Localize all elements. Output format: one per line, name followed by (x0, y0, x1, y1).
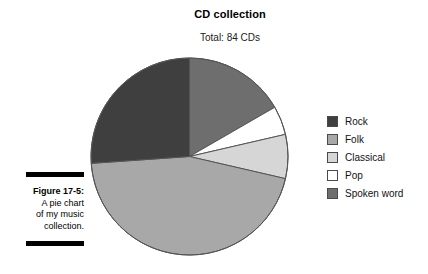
legend-swatch-classical (327, 152, 338, 163)
legend-label-folk: Folk (345, 134, 364, 145)
legend-label-spoken-word: Spoken word (345, 188, 403, 199)
pie-chart (90, 57, 289, 256)
chart-total-label: Total: 84 CDs (140, 32, 320, 43)
figure-caption: Figure 17-5: A pie chart of my music col… (22, 172, 84, 246)
figure-number: Figure 17-5: (22, 186, 84, 198)
chart-title: CD collection (140, 8, 320, 20)
legend-item-pop[interactable]: Pop (327, 166, 427, 184)
figure-caption-line-3: collection. (22, 221, 84, 233)
legend-swatch-folk (327, 134, 338, 145)
legend-label-rock: Rock (345, 116, 368, 127)
chart-legend: Rock Folk Classical Pop Spoken word (327, 112, 427, 202)
figure-caption-line-1: A pie chart (22, 198, 84, 210)
legend-swatch-rock (327, 116, 338, 127)
pie-chart-svg (90, 57, 289, 256)
legend-item-classical[interactable]: Classical (327, 148, 427, 166)
legend-swatch-pop (327, 170, 338, 181)
caption-rule-bottom (26, 241, 84, 246)
legend-item-folk[interactable]: Folk (327, 130, 427, 148)
legend-label-pop: Pop (345, 170, 363, 181)
figure-caption-line-2: of my music (22, 209, 84, 221)
legend-item-spoken-word[interactable]: Spoken word (327, 184, 427, 202)
legend-swatch-spoken-word (327, 188, 338, 199)
pie-slice-group (91, 58, 288, 255)
legend-label-classical: Classical (345, 152, 385, 163)
caption-rule-top (26, 172, 84, 177)
legend-item-rock[interactable]: Rock (327, 112, 427, 130)
pie-slice-rock[interactable] (91, 58, 189, 163)
